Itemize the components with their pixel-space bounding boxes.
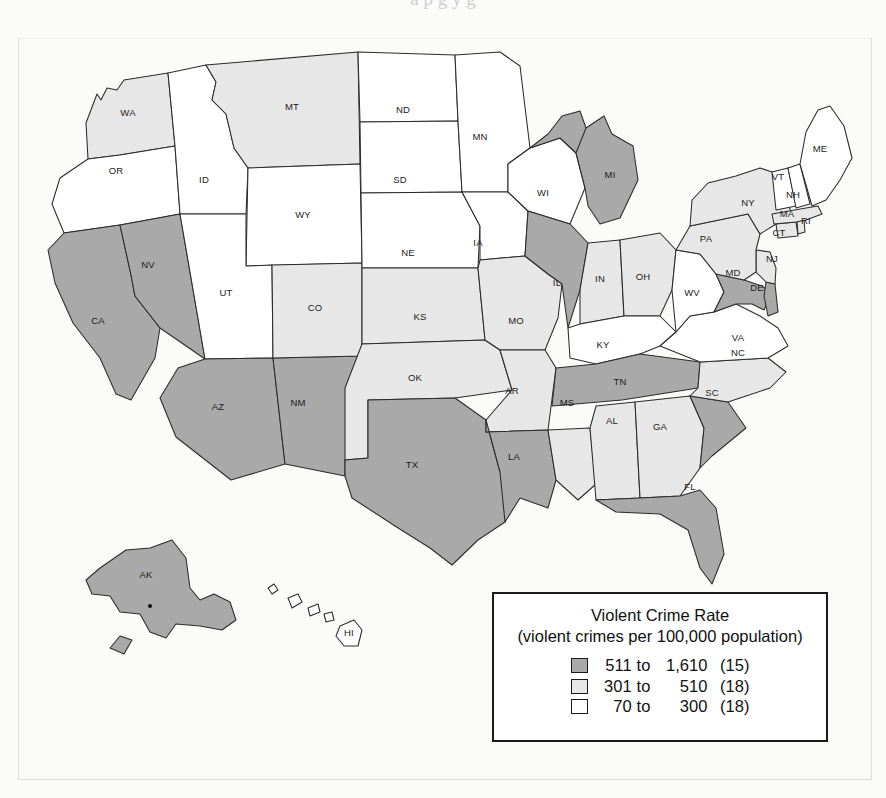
label-VA: VA <box>732 332 745 343</box>
label-WA: WA <box>120 107 136 118</box>
page-rule-bottom <box>18 779 872 780</box>
label-MD: MD <box>725 267 740 278</box>
label-OR: OR <box>109 165 124 176</box>
label-WI: WI <box>537 187 549 198</box>
label-AL: AL <box>606 415 618 426</box>
legend-title: Violent Crime Rate <box>591 605 729 626</box>
label-TN: TN <box>613 376 626 387</box>
label-MN: MN <box>472 131 487 142</box>
state-NE[interactable] <box>361 192 480 268</box>
label-NY: NY <box>741 197 755 208</box>
label-ME: ME <box>813 143 828 154</box>
clipped-caption-above: a p g y g <box>0 0 886 14</box>
label-SD: SD <box>393 174 407 185</box>
ak-city-dot <box>148 604 152 608</box>
label-SC: SC <box>705 387 719 398</box>
label-KY: KY <box>596 339 610 350</box>
label-HI: HI <box>344 627 354 638</box>
label-WV: WV <box>684 287 700 298</box>
label-TX: TX <box>406 459 419 470</box>
label-CT: CT <box>772 227 785 238</box>
label-NC: NC <box>731 347 745 358</box>
legend-subtitle: (violent crimes per 100,000 population) <box>517 626 802 647</box>
label-NJ: NJ <box>766 253 778 264</box>
state-AZ[interactable] <box>160 358 285 480</box>
label-MS: MS <box>560 397 575 408</box>
legend-low-mid: 301 <box>598 677 632 696</box>
legend-low-low: 70 <box>598 697 632 716</box>
state-FL[interactable] <box>596 490 724 584</box>
label-NM: NM <box>290 397 305 408</box>
legend-high-high: 1,610 <box>655 656 707 675</box>
label-AZ: AZ <box>212 401 225 412</box>
state-DE[interactable] <box>764 282 778 316</box>
label-LA: LA <box>508 451 520 462</box>
state-AK[interactable] <box>86 540 236 654</box>
label-MT: MT <box>285 101 299 112</box>
label-MO: MO <box>508 315 524 326</box>
label-IA: IA <box>473 237 483 248</box>
state-MS[interactable] <box>548 428 596 500</box>
label-NV: NV <box>141 259 155 270</box>
label-AR: AR <box>505 385 519 396</box>
legend-row-low[interactable]: 70 to 300 (18) <box>571 697 750 716</box>
legend-swatch-mid <box>571 679 588 694</box>
legend-count-low: (18) <box>707 697 749 716</box>
label-AK: AK <box>139 569 153 580</box>
legend-row-high[interactable]: 511 to 1,610 (15) <box>571 656 750 675</box>
legend-count-high: (15) <box>707 656 749 675</box>
legend-row-mid[interactable]: 301 to 510 (18) <box>571 677 750 696</box>
figure-page: a p g y g <box>0 0 886 798</box>
legend-to-high: to <box>632 656 656 675</box>
label-IN: IN <box>595 273 605 284</box>
legend-count-mid: (18) <box>707 677 749 696</box>
label-UT: UT <box>219 287 232 298</box>
label-CO: CO <box>308 302 323 313</box>
label-IL: IL <box>553 277 561 288</box>
label-NE: NE <box>401 247 415 258</box>
label-GA: GA <box>653 421 668 432</box>
label-ID: ID <box>199 174 209 185</box>
label-VT: VT <box>772 171 785 182</box>
legend-low-high: 511 <box>598 656 632 675</box>
label-OH: OH <box>636 271 651 282</box>
map-legend: Violent Crime Rate (violent crimes per 1… <box>492 592 828 742</box>
label-ND: ND <box>396 104 410 115</box>
label-CA: CA <box>91 315 105 326</box>
label-DE: DE <box>750 282 764 293</box>
legend-to-mid: to <box>632 677 656 696</box>
label-NH: NH <box>786 189 800 200</box>
label-KS: KS <box>413 311 426 322</box>
label-PA: PA <box>700 233 713 244</box>
label-MA: MA <box>780 208 795 219</box>
label-OK: OK <box>408 372 423 383</box>
state-SD[interactable] <box>360 121 462 193</box>
label-MI: MI <box>605 169 616 180</box>
label-WY: WY <box>295 209 311 220</box>
legend-swatch-low <box>571 699 588 714</box>
label-RI: RI <box>801 215 811 226</box>
state-ME[interactable] <box>800 106 852 206</box>
legend-to-low: to <box>632 697 656 716</box>
label-FL: FL <box>684 481 696 492</box>
legend-high-low: 300 <box>655 697 707 716</box>
legend-swatch-high <box>571 658 588 673</box>
legend-high-mid: 510 <box>655 677 707 696</box>
legend-rows: 511 to 1,610 (15) 301 to 510 (18) 70 to … <box>571 656 750 716</box>
